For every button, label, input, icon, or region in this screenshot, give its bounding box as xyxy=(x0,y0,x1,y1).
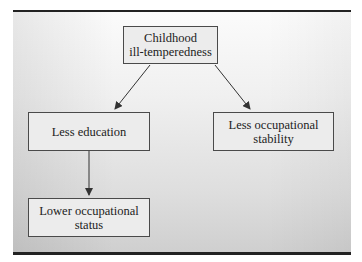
arrow-childhood-to-stability xyxy=(215,65,250,109)
node-label-line1: Less occupational xyxy=(229,118,319,132)
node-label-line1: Childhood xyxy=(129,31,212,45)
node-childhood-ill-temperedness: Childhood ill-temperedness xyxy=(123,26,218,64)
arrow-childhood-to-education xyxy=(115,65,150,109)
node-label-line2: status xyxy=(39,218,139,232)
node-label-line1: Lower occupational xyxy=(39,204,139,218)
node-less-occupational-stability: Less occupational stability xyxy=(213,112,334,151)
node-less-education: Less education xyxy=(28,112,150,151)
bottom-rule xyxy=(13,252,351,255)
node-label-line1: Less education xyxy=(52,125,127,139)
node-label-line2: stability xyxy=(229,132,319,146)
node-label-line2: ill-temperedness xyxy=(129,45,212,59)
node-lower-occupational-status: Lower occupational status xyxy=(28,198,150,237)
